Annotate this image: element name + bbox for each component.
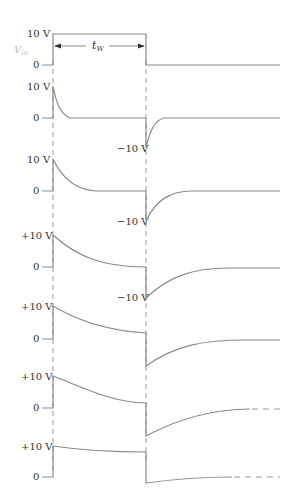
output-waveform-2: 10 V 0 −10 V xyxy=(27,154,280,227)
out3-low-label: −10 V xyxy=(117,292,149,303)
output-waveform-5: +10 V 0 xyxy=(21,371,280,436)
output-waveform-1: 10 V 0 −10 V xyxy=(27,81,280,154)
input-zero-label: 0 xyxy=(33,59,39,70)
out3-high-label: +10 V xyxy=(21,230,53,241)
arrowhead-right-icon xyxy=(138,44,145,49)
out5-zero-label: 0 xyxy=(33,402,39,413)
out1-low-label: −10 V xyxy=(117,143,149,154)
out2-low-label: −10 V xyxy=(117,216,149,227)
out1-curve xyxy=(42,86,280,148)
input-high-label: 10 V xyxy=(27,28,51,39)
output-waveform-3: +10 V 0 −10 V xyxy=(21,230,280,303)
out2-high-label: 10 V xyxy=(27,154,51,165)
out2-zero-label: 0 xyxy=(33,185,39,196)
output-waveform-4: +10 V 0 xyxy=(21,301,280,366)
out6-zero-label: 0 xyxy=(33,471,39,482)
input-pulse-waveform xyxy=(42,34,280,65)
out4-zero-label: 0 xyxy=(33,333,39,344)
out4-curve xyxy=(42,306,280,366)
waveform-diagram: 10 V Vin 0 tW 10 V 0 −10 V 10 V 0 −10 V … xyxy=(0,0,299,497)
out6-high-label: +10 V xyxy=(21,441,53,452)
pulse-width-label: tW xyxy=(92,39,104,53)
out5-high-label: +10 V xyxy=(21,371,53,382)
out3-zero-label: 0 xyxy=(33,261,39,272)
out3-curve xyxy=(42,235,280,298)
arrowhead-left-icon xyxy=(54,44,61,49)
out2-curve xyxy=(42,159,280,221)
output-waveform-6: +10 V 0 xyxy=(21,441,280,483)
input-pulse: 10 V Vin 0 tW xyxy=(14,28,280,70)
out1-high-label: 10 V xyxy=(27,81,51,92)
out4-high-label: +10 V xyxy=(21,301,53,312)
vin-label: Vin xyxy=(14,44,28,57)
out1-zero-label: 0 xyxy=(33,112,39,123)
out6-curve xyxy=(42,446,232,483)
